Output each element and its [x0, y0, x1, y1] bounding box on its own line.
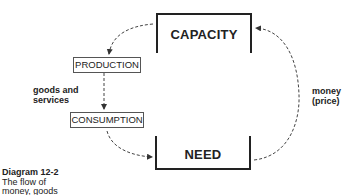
arrow-consumption-to-need: [107, 131, 152, 157]
capacity-node: CAPACITY: [156, 13, 252, 53]
consumption-node: CONSUMPTION: [70, 112, 144, 128]
money-label-line1: money: [312, 86, 341, 96]
goods-label-line2: services: [33, 95, 79, 105]
arrow-capacity-to-production: [109, 24, 153, 54]
diagram-caption: Diagram 12-2 The flow of money, goods: [2, 168, 59, 195]
goods-label-line1: goods and: [33, 85, 79, 95]
money-price-label: money (price): [312, 86, 341, 106]
production-node: PRODUCTION: [73, 57, 141, 73]
money-label-line2: (price): [312, 96, 341, 106]
arrow-need-to-capacity: [254, 28, 299, 160]
need-node: NEED: [155, 136, 251, 170]
caption-line2: money, goods: [2, 187, 59, 195]
capacity-label: CAPACITY: [158, 27, 250, 42]
goods-and-services-label: goods and services: [33, 85, 79, 105]
need-label: NEED: [157, 147, 249, 162]
